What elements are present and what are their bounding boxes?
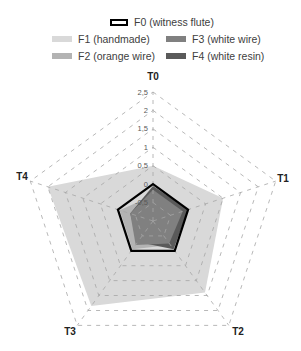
axis-label-t0: T0	[147, 71, 159, 82]
series-layer	[48, 166, 223, 306]
axis-label-t2: T2	[232, 326, 244, 337]
tick-label: -0,5	[135, 198, 148, 207]
tick-label: 2	[144, 106, 148, 115]
axis-label-t3: T3	[64, 326, 76, 337]
tick-label: 1,5	[138, 124, 148, 133]
radar-chart: -0,500,511,522,5 T0T1T2T3T4	[0, 0, 301, 351]
axis-label-t1: T1	[277, 173, 289, 184]
tick-label: 0,5	[138, 161, 148, 170]
tick-label: 1	[144, 143, 148, 152]
tick-label: 0	[144, 180, 148, 189]
axis-label-t4: T4	[16, 171, 28, 182]
tick-label: 2,5	[138, 88, 148, 97]
